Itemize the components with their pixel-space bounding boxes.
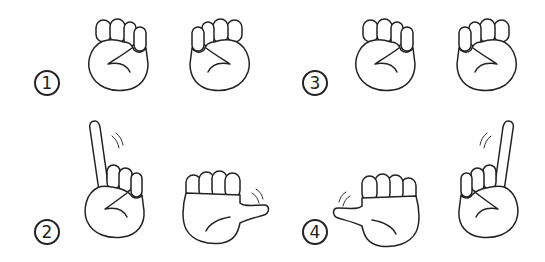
hands-illustration [0,0,545,262]
step-1-right-fist [190,19,249,90]
step-2-right-thumb-out [183,171,269,243]
finger-exercise-diagram: 1 2 3 4 [0,0,545,262]
step-3-left-fist [356,19,415,90]
step-4-left-thumb-out [334,174,420,246]
step-3-right-fist [457,19,516,90]
step-4-right-index-up [459,121,518,237]
step-2-left-index-up [85,121,144,237]
step-1-left-fist [89,19,148,90]
